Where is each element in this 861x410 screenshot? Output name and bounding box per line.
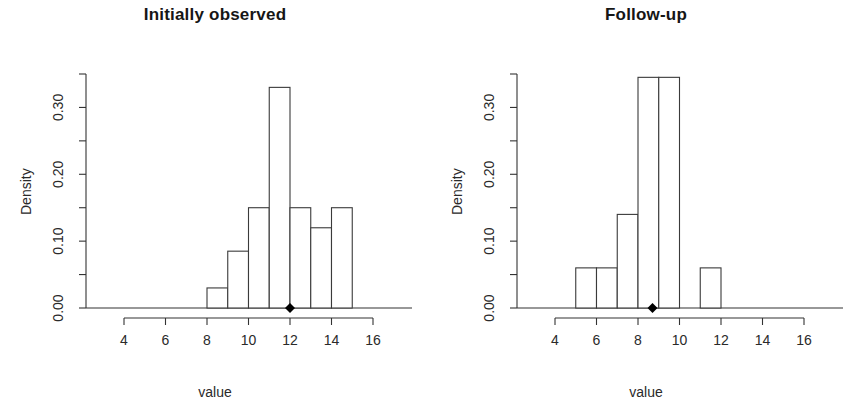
x-tick-label: 4 bbox=[551, 332, 559, 348]
histogram-bar bbox=[332, 208, 353, 308]
histogram-bar bbox=[228, 251, 249, 308]
histogram-bar bbox=[576, 268, 597, 308]
histogram-bar bbox=[638, 77, 659, 308]
panel-follow-up: Follow-up Density 0.000.100.200.30468101… bbox=[431, 0, 861, 410]
histogram-bar bbox=[597, 268, 618, 308]
y-tick-label: 0.10 bbox=[481, 227, 497, 254]
histogram-bar bbox=[617, 214, 638, 308]
histogram-bar bbox=[269, 87, 290, 308]
histogram-bar bbox=[659, 77, 680, 308]
plot-area-right: 0.000.100.200.3046810121416 bbox=[431, 0, 861, 410]
x-axis-label: value bbox=[431, 384, 861, 400]
y-tick-label: 0.00 bbox=[50, 294, 66, 321]
x-tick-label: 16 bbox=[365, 332, 381, 348]
x-tick-label: 12 bbox=[282, 332, 298, 348]
x-tick-label: 8 bbox=[203, 332, 211, 348]
x-tick-label: 16 bbox=[796, 332, 812, 348]
figure-two-histograms: Initially observed Density 0.000.100.200… bbox=[0, 0, 861, 410]
x-tick-label: 6 bbox=[162, 332, 170, 348]
x-axis-label: value bbox=[0, 384, 430, 400]
histogram-bar bbox=[207, 288, 228, 308]
histogram-bar bbox=[249, 208, 270, 308]
y-tick-label: 0.30 bbox=[50, 94, 66, 121]
histogram-bar bbox=[311, 228, 332, 308]
x-tick-label: 10 bbox=[672, 332, 688, 348]
panel-initially-observed: Initially observed Density 0.000.100.200… bbox=[0, 0, 430, 410]
y-tick-label: 0.30 bbox=[481, 94, 497, 121]
plot-area-left: 0.000.100.200.3046810121416 bbox=[0, 0, 430, 410]
x-tick-label: 4 bbox=[120, 332, 128, 348]
x-tick-label: 14 bbox=[324, 332, 340, 348]
y-tick-label: 0.00 bbox=[481, 294, 497, 321]
histogram-bar bbox=[290, 208, 311, 308]
y-tick-label: 0.20 bbox=[481, 160, 497, 187]
histogram-bar bbox=[700, 268, 721, 308]
x-tick-label: 10 bbox=[241, 332, 257, 348]
x-tick-label: 6 bbox=[593, 332, 601, 348]
x-tick-label: 8 bbox=[634, 332, 642, 348]
x-tick-label: 12 bbox=[713, 332, 729, 348]
y-tick-label: 0.10 bbox=[50, 227, 66, 254]
y-tick-label: 0.20 bbox=[50, 160, 66, 187]
x-tick-label: 14 bbox=[755, 332, 771, 348]
